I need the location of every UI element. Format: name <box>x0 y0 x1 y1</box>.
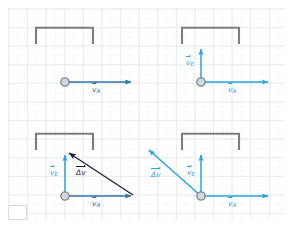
vA-symbol: v <box>228 86 233 94</box>
vE-subscript: E <box>192 171 196 177</box>
delta-v-symbol: Δv <box>76 169 86 177</box>
label-vA-panel-1: vA <box>92 86 100 95</box>
vA-subscript: A <box>233 88 237 94</box>
vE-symbol: v <box>187 169 192 177</box>
label-vA-panel-4: vA <box>228 200 236 209</box>
label-vE-panel-3: vE <box>50 169 58 178</box>
label-delta-v-panel-4: Δv <box>151 171 161 179</box>
vE-symbol: v <box>186 59 191 67</box>
vA-symbol: v <box>92 200 97 208</box>
vE-symbol: v <box>50 169 55 177</box>
vA-subscript: A <box>97 88 101 94</box>
label-vE-panel-4: vE <box>187 169 195 178</box>
label-vA-panel-3: vA <box>92 200 100 209</box>
label-vE-panel-2: vE <box>186 59 194 68</box>
label-delta-v-panel-3: Δv <box>76 169 86 177</box>
page-corner-mark <box>8 205 27 220</box>
vE-subscript: E <box>191 61 195 67</box>
delta-v-symbol: Δv <box>151 171 161 179</box>
vE-subscript: E <box>55 171 59 177</box>
vA-symbol: v <box>92 86 97 94</box>
figure-canvas: vA vA vE vA vE Δv vA vE Δv <box>0 0 292 227</box>
graph-paper-grid <box>8 8 285 220</box>
vA-subscript: A <box>233 202 237 208</box>
label-vA-panel-2: vA <box>228 86 236 95</box>
vA-symbol: v <box>228 200 233 208</box>
vA-subscript: A <box>97 202 101 208</box>
